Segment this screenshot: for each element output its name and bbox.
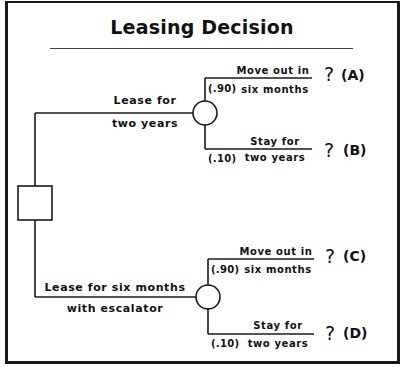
outcome-b-prob: (.10) bbox=[208, 153, 236, 164]
outcome-a-value: ? bbox=[324, 63, 334, 85]
outcome-a-line2: six months bbox=[238, 84, 312, 95]
outcome-c-line1: Move out in bbox=[235, 246, 317, 257]
outcome-c-tag: (C) bbox=[343, 248, 366, 264]
outcome-d-line2: two years bbox=[241, 338, 315, 349]
decision-node-square bbox=[18, 186, 52, 220]
outcome-d-tag: (D) bbox=[343, 325, 367, 341]
outcome-c-prob: (.90) bbox=[211, 264, 239, 275]
alt2-label-line1: Lease for six months bbox=[30, 281, 200, 294]
outcome-d-value: ? bbox=[325, 322, 335, 344]
outcome-b-tag: (B) bbox=[343, 142, 366, 158]
alt1-label-line1: Lease for bbox=[70, 94, 220, 107]
outcome-a-line1: Move out in bbox=[232, 65, 314, 76]
alt1-label-line2: two years bbox=[70, 117, 220, 130]
outcome-d-prob: (.10) bbox=[211, 338, 239, 349]
outcome-b-line2: two years bbox=[238, 152, 312, 163]
outcome-b-line1: Stay for bbox=[238, 136, 312, 147]
outcome-c-line2: six months bbox=[241, 264, 315, 275]
outcome-c-value: ? bbox=[325, 245, 335, 267]
outcome-d-line1: Stay for bbox=[241, 320, 315, 331]
outcome-b-value: ? bbox=[324, 139, 334, 161]
outcome-a-prob: (.90) bbox=[208, 83, 236, 94]
outcome-a-tag: (A) bbox=[341, 67, 365, 83]
alt2-label-line2: with escalator bbox=[30, 302, 200, 315]
